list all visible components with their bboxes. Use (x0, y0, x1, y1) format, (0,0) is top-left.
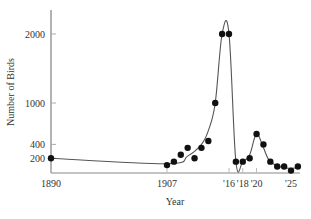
data-point (205, 138, 211, 144)
y-axis-title: Number of Birds (5, 58, 16, 126)
x-tick-label: 1890 (41, 178, 61, 189)
data-point (226, 31, 232, 37)
data-point (246, 155, 252, 161)
x-tick-label: '16 (223, 178, 235, 189)
y-tick-label: 1000 (25, 98, 45, 109)
x-ticks: 18901907'16'18'20'25 (41, 168, 297, 189)
data-point (253, 131, 259, 137)
fitted-curve (51, 20, 298, 172)
data-point (233, 158, 239, 164)
data-point (178, 152, 184, 158)
data-point (191, 155, 197, 161)
data-point (171, 158, 177, 164)
data-point (260, 141, 266, 147)
x-tick-label: 1907 (157, 178, 177, 189)
data-point (274, 163, 280, 169)
data-point (288, 167, 294, 173)
data-point (295, 163, 301, 169)
x-tick-label: '18 (237, 178, 249, 189)
x-axis-title: Year (166, 196, 185, 207)
x-tick-label: '25 (285, 178, 297, 189)
y-tick-label: 2000 (25, 29, 45, 40)
bird-population-chart: 20040010002000 18901907'16'18'20'25 Numb… (0, 0, 311, 219)
data-point (240, 158, 246, 164)
data-point (267, 158, 273, 164)
y-tick-label: 400 (30, 139, 45, 150)
data-point (198, 145, 204, 151)
data-point (164, 162, 170, 168)
y-tick-label: 200 (30, 153, 45, 164)
data-point (219, 31, 225, 37)
axes (51, 10, 300, 173)
data-point (184, 145, 190, 151)
x-tick-label: '20 (251, 178, 263, 189)
data-point (48, 155, 54, 161)
data-point (212, 100, 218, 106)
data-point (281, 163, 287, 169)
data-points (48, 31, 301, 174)
